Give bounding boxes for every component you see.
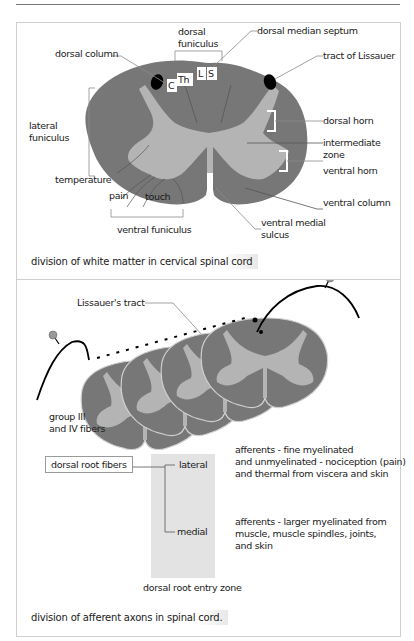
header-rule [16, 4, 400, 5]
temperature-label: temperature [55, 174, 112, 185]
lissauers-tract-label: Lissauer's tract [77, 297, 145, 308]
ventral-horn-label: ventral horn [323, 165, 378, 176]
touch-label: touch [145, 191, 171, 202]
synapse-node [253, 318, 258, 323]
lateral-description-line: afferents - fine myelinated [235, 444, 353, 456]
figure-caption: division of white matter in cervical spi… [25, 254, 258, 269]
group-fibers-label: and IV fibers [49, 423, 105, 434]
ganglion-right [326, 280, 334, 282]
spinal-cord-cross-section: C Th L S dorsal funiculus dorsal median … [17, 23, 400, 253]
medial-description-line: and skin [235, 540, 273, 552]
ventral-medial-fissure [207, 173, 213, 204]
ventral-column-label: ventral column [323, 197, 391, 208]
tract-of-lissauer-label: tract of Lissauer [323, 50, 395, 61]
lateral-funiculus-label: lateral [29, 120, 57, 131]
ventral-funiculus-label: ventral funiculus [117, 224, 192, 235]
dorsal-root-fibers-box: dorsal root fibers [45, 456, 133, 473]
figure-afferent-axons-panel: Lissauer's tract group III and IV fibers… [16, 280, 401, 637]
ventral-funiculus-bracket [111, 209, 183, 217]
entry-zone-label: dorsal root entry zone [143, 582, 241, 594]
cord-section [201, 318, 327, 408]
lateral-description-line: and thermal from viscera and skin [235, 468, 388, 480]
synapse-node [259, 330, 263, 334]
ventral-medial-sulcus-label: ventral medial [261, 217, 326, 228]
dorsal-horn-label: dorsal horn [323, 115, 374, 126]
segment-th-label: Th [177, 74, 190, 85]
tract-of-lissauer-leader [275, 56, 323, 79]
figure-white-matter-panel: C Th L S dorsal funiculus dorsal median … [16, 22, 401, 282]
lateral-branch [165, 465, 175, 532]
ganglion-left [49, 331, 57, 339]
dorsal-median-septum-label: dorsal median septum [257, 25, 358, 36]
lateral-description-line: and unmyelinated - nociception (pain) [235, 456, 406, 468]
ventral-medial-sulcus-label: sulcus [261, 229, 289, 240]
stacked-spinal-cord-sections: Lissauer's tract group III and IV fibers [17, 280, 400, 450]
lateral-funiculus-label: funiculus [29, 132, 70, 143]
group-fiber-left [37, 341, 89, 400]
spinal-cord-stack [81, 318, 327, 450]
dorsal-funiculus-bracket [175, 51, 222, 61]
medial-description-line: muscle, muscle spindles, joints, [235, 528, 376, 540]
lateral-label: lateral [179, 459, 207, 471]
medial-label: medial [177, 526, 207, 538]
segment-s-label: S [208, 68, 214, 79]
group-fibers-label: group III [49, 411, 85, 422]
pain-label: pain [109, 190, 129, 201]
medial-description-line: afferents - larger myelinated from [235, 516, 386, 528]
dorsal-funiculus-label: funiculus [178, 38, 219, 49]
figure-caption: division of afferent axons in spinal cor… [25, 610, 228, 625]
intermediate-zone-label: zone [323, 149, 345, 160]
segment-c-label: C [168, 80, 175, 91]
dorsal-column-label: dorsal column [55, 48, 119, 59]
fiber-stalk-left [55, 338, 59, 344]
dorsal-funiculus-label: dorsal [178, 26, 205, 37]
dorsal-median-septum-leader [213, 31, 257, 67]
intermediate-zone-label: intermediate [323, 137, 381, 148]
